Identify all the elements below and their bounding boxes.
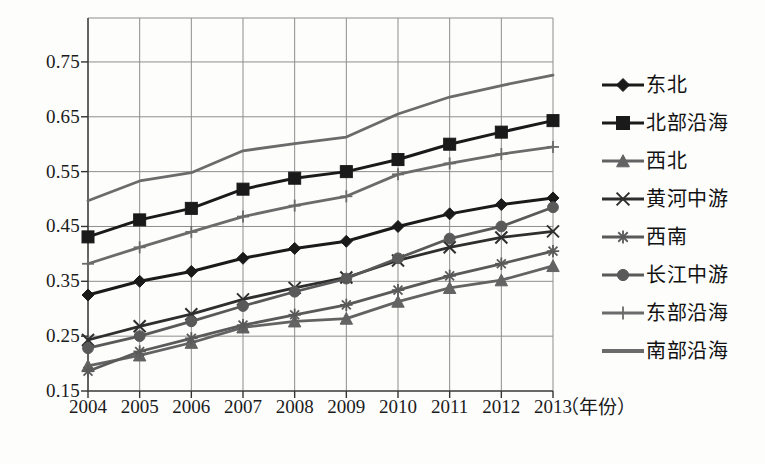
marker-square xyxy=(237,183,249,195)
data-point-marker xyxy=(392,168,404,180)
legend-label: 黄河中游 xyxy=(646,189,728,209)
legend-label: 东部沿海 xyxy=(646,303,728,323)
series-line xyxy=(88,198,553,295)
marker-circle xyxy=(341,273,352,284)
data-point-marker xyxy=(340,190,352,202)
legend-item-2[interactable]: 北部沿海 xyxy=(600,104,765,142)
legend-marker-diamond-icon xyxy=(600,75,646,95)
data-point-marker xyxy=(547,141,559,153)
data-point-marker xyxy=(82,258,94,270)
data-point-marker xyxy=(340,166,352,178)
data-point-marker xyxy=(83,343,94,354)
data-point-marker xyxy=(444,208,456,220)
data-point-marker xyxy=(134,331,145,342)
legend-label: 北部沿海 xyxy=(646,113,728,133)
marker-circle xyxy=(238,301,249,312)
data-point-marker xyxy=(186,316,197,327)
series-5 xyxy=(82,245,559,378)
chart-legend: 东北北部沿海西北黄河中游西南长江中游东部沿海南部沿海 xyxy=(600,66,765,370)
marker-circle xyxy=(134,331,145,342)
data-point-marker xyxy=(238,301,249,312)
legend-key-swatch xyxy=(600,227,646,247)
data-point-marker xyxy=(443,270,455,282)
marker-square xyxy=(82,231,94,243)
y-axis-tick-label: 0.75 xyxy=(18,52,80,71)
data-point-marker xyxy=(237,183,249,195)
data-point-marker xyxy=(392,154,404,166)
marker-square xyxy=(340,166,352,178)
data-point-marker xyxy=(495,126,507,138)
data-point-marker xyxy=(185,332,197,344)
data-point-marker xyxy=(237,252,249,264)
data-point-marker xyxy=(617,307,630,320)
data-point-marker xyxy=(617,117,630,130)
data-point-marker xyxy=(82,231,94,243)
data-point-marker xyxy=(341,273,352,284)
legend-key-swatch xyxy=(600,113,646,133)
marker-square xyxy=(392,154,404,166)
legend-item-5[interactable]: 西南 xyxy=(600,218,765,256)
data-point-marker xyxy=(547,115,559,127)
marker-diamond xyxy=(82,289,94,301)
marker-square xyxy=(547,115,559,127)
y-axis-tick-label: 0.65 xyxy=(18,107,80,126)
data-point-marker xyxy=(288,309,300,321)
legend-marker-circle-icon xyxy=(600,265,646,285)
data-point-marker xyxy=(616,230,629,243)
legend-key-swatch xyxy=(600,265,646,285)
legend-label: 西北 xyxy=(646,151,687,171)
marker-diamond xyxy=(237,252,249,264)
data-point-marker xyxy=(237,211,249,223)
legend-marker-triangle-icon xyxy=(600,151,646,171)
data-point-marker xyxy=(547,245,559,257)
legend-key-swatch xyxy=(600,189,646,209)
marker-circle xyxy=(548,202,559,213)
data-point-marker xyxy=(495,199,507,211)
legend-label: 东北 xyxy=(646,75,687,95)
data-point-marker xyxy=(134,275,146,287)
marker-square xyxy=(185,202,197,214)
data-point-marker xyxy=(82,289,94,301)
legend-item-3[interactable]: 西北 xyxy=(600,142,765,180)
legend-label: 西南 xyxy=(646,227,687,247)
y-axis-tick-label: 0.25 xyxy=(18,326,80,345)
marker-circle xyxy=(617,269,628,280)
series-7 xyxy=(82,141,559,270)
data-point-marker xyxy=(82,365,94,377)
line-chart-svg xyxy=(88,40,553,391)
data-point-marker xyxy=(237,319,249,331)
marker-circle xyxy=(83,343,94,354)
legend-item-6[interactable]: 长江中游 xyxy=(600,256,765,294)
legend-marker-plus-icon xyxy=(600,303,646,323)
chart-root: 0.750.650.550.450.350.250.15 20042005200… xyxy=(0,0,765,464)
data-point-marker xyxy=(185,226,197,238)
y-axis-tick-label: 0.55 xyxy=(18,162,80,181)
marker-diamond xyxy=(444,208,456,220)
data-point-marker xyxy=(289,200,301,212)
data-point-marker xyxy=(134,214,146,226)
x-axis-title: （年份） xyxy=(560,396,636,418)
legend-item-4[interactable]: 黄河中游 xyxy=(600,180,765,218)
marker-diamond xyxy=(617,79,630,92)
legend-item-7[interactable]: 东部沿海 xyxy=(600,294,765,332)
legend-item-8[interactable]: 南部沿海 xyxy=(600,332,765,370)
marker-diamond xyxy=(134,275,146,287)
data-point-marker xyxy=(392,284,404,296)
data-point-marker xyxy=(134,241,146,253)
marker-square xyxy=(495,126,507,138)
data-point-marker xyxy=(495,148,507,160)
data-point-marker xyxy=(444,157,456,169)
legend-marker-x-icon xyxy=(600,189,646,209)
marker-diamond xyxy=(185,265,197,277)
marker-circle xyxy=(444,233,455,244)
marker-square xyxy=(134,214,146,226)
data-point-marker xyxy=(340,235,352,247)
data-point-marker xyxy=(340,299,352,311)
data-point-marker xyxy=(392,220,404,232)
marker-circle xyxy=(289,286,300,297)
legend-item-1[interactable]: 东北 xyxy=(600,66,765,104)
y-axis-tick-label: 0.45 xyxy=(18,216,80,235)
marker-diamond xyxy=(340,235,352,247)
marker-square xyxy=(289,172,301,184)
legend-key-swatch xyxy=(600,151,646,171)
